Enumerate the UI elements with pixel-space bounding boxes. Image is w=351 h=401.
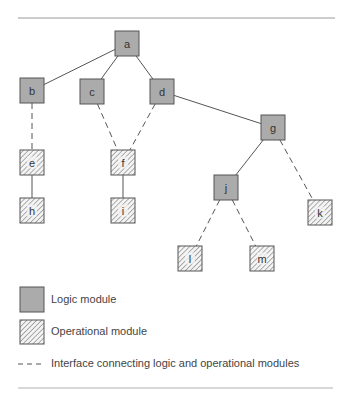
edge-c-f — [97, 104, 117, 150]
node-label: b — [29, 85, 35, 97]
node-g-logic-module: g — [261, 115, 285, 140]
legend-operational-label: Operational module — [51, 325, 147, 337]
node-label: d — [159, 86, 165, 98]
node-b-logic-module: b — [20, 78, 44, 103]
node-f-operational-module: f — [111, 150, 135, 175]
edge-g-j — [236, 140, 263, 175]
node-label: l — [189, 253, 191, 265]
node-label: j — [224, 182, 227, 194]
edge-a-d — [136, 56, 153, 79]
edge-a-c — [101, 56, 118, 79]
node-j-logic-module: j — [214, 175, 238, 200]
node-a-logic-module: a — [115, 31, 139, 56]
legend-logic-label: Logic module — [51, 293, 116, 305]
nodes-layer: abcdgefhijklm — [20, 31, 332, 271]
module-hierarchy-diagram: abcdgefhijklm — [0, 0, 351, 401]
node-label: m — [257, 253, 266, 265]
legend-logic-swatch — [20, 287, 44, 312]
node-label: g — [270, 122, 276, 134]
edge-d-f — [130, 104, 155, 150]
node-h-operational-module: h — [20, 198, 44, 223]
legend-operational-swatch — [20, 320, 44, 344]
node-label: k — [317, 207, 323, 219]
node-i-operational-module: i — [111, 198, 135, 223]
edge-g-k — [280, 140, 313, 200]
node-l-operational-module: l — [178, 246, 202, 271]
edge-j-m — [232, 200, 255, 246]
node-label: i — [122, 205, 124, 217]
node-label: a — [124, 38, 131, 50]
node-d-logic-module: d — [150, 79, 174, 104]
edge-j-l — [196, 200, 219, 246]
node-e-operational-module: e — [20, 150, 44, 175]
node-c-logic-module: c — [80, 79, 104, 104]
node-k-operational-module: k — [308, 200, 332, 225]
node-m-operational-module: m — [250, 246, 274, 271]
legend-interface-label: Interface connecting logic and operation… — [51, 357, 299, 369]
node-label: e — [29, 157, 35, 169]
node-label: h — [29, 205, 35, 217]
edge-d-g — [174, 95, 261, 123]
node-label: c — [89, 86, 95, 98]
